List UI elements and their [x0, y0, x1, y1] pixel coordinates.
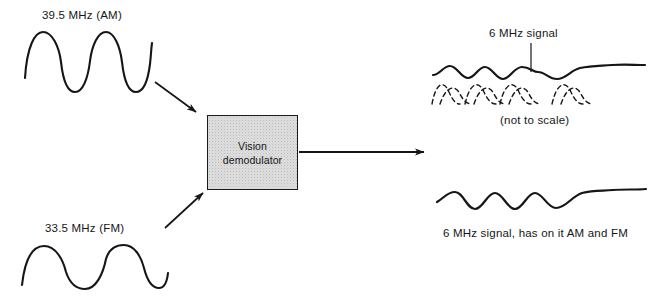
diagram-canvas: Vision demodulator 39.5 MHz (AM) 33.5 MH… — [0, 0, 656, 300]
arrow-am-to-demodulator — [155, 82, 196, 112]
block-label-line-1: Vision — [238, 140, 267, 152]
label-not-to-scale: (not to scale) — [500, 114, 569, 126]
waveform-output-top-solid — [433, 65, 645, 79]
arrow-fm-to-demodulator — [165, 193, 203, 228]
vision-demodulator-block[interactable]: Vision demodulator — [207, 115, 298, 190]
waveform-input-fm — [22, 245, 168, 289]
label-output-callout: 6 MHz signal — [489, 27, 558, 39]
label-output-caption: 6 MHz signal, has on it AM and FM — [443, 227, 628, 239]
vision-demodulator-block-label: Vision demodulator — [223, 139, 282, 167]
label-input-fm: 33.5 MHz (FM) — [45, 222, 124, 234]
waveform-input-am — [25, 32, 152, 92]
label-input-am: 39.5 MHz (AM) — [42, 9, 122, 21]
waveform-output-bottom — [437, 189, 646, 209]
waveform-output-dashed-arcs — [432, 85, 593, 104]
block-label-line-2: demodulator — [223, 154, 282, 166]
diagram-vector-layer — [0, 0, 656, 300]
